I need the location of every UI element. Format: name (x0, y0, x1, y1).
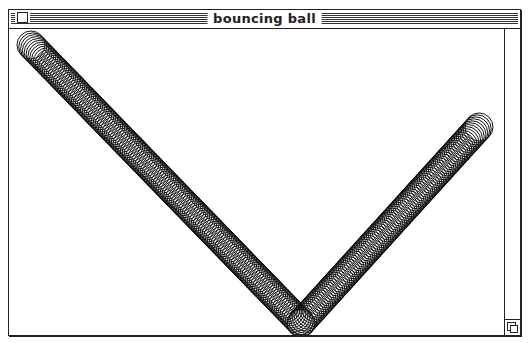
ball-trail (9, 29, 504, 335)
vertical-scrollbar[interactable] (504, 29, 520, 320)
close-box-icon[interactable] (17, 12, 28, 23)
window-title: bouncing ball (207, 11, 322, 26)
title-bar[interactable]: bouncing ball (9, 10, 520, 29)
size-box-front-square (510, 325, 518, 333)
bouncing-ball-window: bouncing ball (8, 9, 521, 336)
animation-canvas (9, 29, 504, 335)
size-box-icon[interactable] (504, 319, 520, 335)
